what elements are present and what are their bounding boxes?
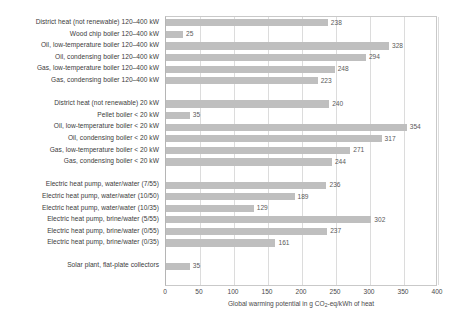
x-tick-label: 0 xyxy=(163,288,167,295)
bar-row: 238 xyxy=(166,17,436,29)
bar-value-label: 244 xyxy=(332,157,346,167)
bar-value-label: 354 xyxy=(407,122,421,132)
category-label: Electric heat pump, brine/water (0/35) xyxy=(0,236,163,248)
bar-value-label: 294 xyxy=(366,52,380,62)
bar xyxy=(166,100,329,107)
x-tick-label: 200 xyxy=(295,288,306,295)
bar xyxy=(166,54,366,61)
bar-row: 237 xyxy=(166,226,436,238)
bar xyxy=(166,205,254,212)
category-label: Electric heat pump, water/water (10/50) xyxy=(0,190,163,202)
bar-row: 328 xyxy=(166,40,436,52)
category-label: Oil, low-temperature boiler < 20 kW xyxy=(0,120,163,132)
gridline-400 xyxy=(438,17,439,285)
bar-value-label: 240 xyxy=(329,99,343,109)
bar xyxy=(166,31,183,38)
x-tick-label: 250 xyxy=(329,288,340,295)
bar-row: 317 xyxy=(166,133,436,145)
x-tick-label: 50 xyxy=(195,288,202,295)
bar-value-label: 271 xyxy=(350,145,364,155)
bar-row: 302 xyxy=(166,214,436,226)
category-label: Pellet boiler < 20 kW xyxy=(0,109,163,121)
category-label: Electric heat pump, brine/water (0/55) xyxy=(0,225,163,237)
bar-row: 240 xyxy=(166,98,436,110)
bar-row: 271 xyxy=(166,145,436,157)
bar-row: 294 xyxy=(166,52,436,64)
bar-row: 244 xyxy=(166,156,436,168)
category-label: Solar plant, flat-plate collectors xyxy=(0,259,163,271)
x-axis-title: Global warming potential in g CO2-eq/kWh… xyxy=(165,300,437,307)
bar-value-label: 328 xyxy=(389,41,403,51)
category-label: Gas, condensing boiler 120–400 kW xyxy=(0,74,163,86)
category-spacer xyxy=(0,167,163,179)
category-labels-column: District heat (not renewable) 120–400 kW… xyxy=(0,16,163,271)
bar xyxy=(166,135,382,142)
bar-value-label: 302 xyxy=(371,215,385,225)
bar xyxy=(166,66,335,73)
bar-row: 129 xyxy=(166,203,436,215)
x-axis-tick-labels: 050100150200250300350400 xyxy=(165,288,437,298)
bar xyxy=(166,228,327,235)
bar xyxy=(166,124,407,131)
bar xyxy=(166,158,332,165)
category-label: District heat (not renewable) 120–400 kW xyxy=(0,16,163,28)
bar-value-label: 317 xyxy=(382,134,396,144)
bar-row: 354 xyxy=(166,121,436,133)
bar-value-label: 189 xyxy=(295,192,309,202)
category-label: Gas, condensing boiler < 20 kW xyxy=(0,155,163,167)
category-label: District heat (not renewable) 20 kW xyxy=(0,97,163,109)
category-label: Oil, condensing boiler < 20 kW xyxy=(0,132,163,144)
bar xyxy=(166,182,326,189)
x-axis-title-prefix: Global warming potential in g CO xyxy=(228,300,325,307)
x-tick-label: 150 xyxy=(261,288,272,295)
bar xyxy=(166,239,275,246)
plot-area: 2382532829424822324035354317271244236189… xyxy=(165,16,437,286)
category-label: Oil, low-temperature boiler 120–400 kW xyxy=(0,39,163,51)
x-tick-label: 300 xyxy=(363,288,374,295)
bar-value-label: 238 xyxy=(328,18,342,28)
bar-value-label: 25 xyxy=(183,29,193,39)
bar-row-spacer xyxy=(166,168,436,180)
bar-value-label: 35 xyxy=(190,261,200,271)
category-label: Electric heat pump, water/water (10/35) xyxy=(0,202,163,214)
category-label: Gas, low-temperature boiler 120–400 kW xyxy=(0,62,163,74)
bar-row-spacer xyxy=(166,249,436,261)
category-label: Gas, low-temperature boiler < 20 kW xyxy=(0,144,163,156)
bar xyxy=(166,19,328,26)
category-spacer xyxy=(0,86,163,98)
category-label: Wood chip boiler 120–400 kW xyxy=(0,28,163,40)
bar-chart: District heat (not renewable) 120–400 kW… xyxy=(0,0,458,320)
bar xyxy=(166,147,350,154)
bar-row: 236 xyxy=(166,179,436,191)
bar-row: 189 xyxy=(166,191,436,203)
category-label: Electric heat pump, brine/water (5/55) xyxy=(0,213,163,225)
category-spacer xyxy=(0,248,163,260)
bar-row: 35 xyxy=(166,260,436,272)
x-axis-title-suffix: -eq/kWh of heat xyxy=(328,300,375,307)
x-axis-title-subscript: 2 xyxy=(325,302,328,308)
bar-row: 223 xyxy=(166,75,436,87)
bar-row: 25 xyxy=(166,29,436,41)
bar-value-label: 161 xyxy=(275,238,289,248)
bar-value-label: 35 xyxy=(190,110,200,120)
bar-row: 248 xyxy=(166,63,436,75)
x-tick-label: 100 xyxy=(227,288,238,295)
bar-row: 35 xyxy=(166,110,436,122)
bar xyxy=(166,263,190,270)
bar-value-label: 129 xyxy=(254,203,268,213)
bar-row: 161 xyxy=(166,237,436,249)
bars-layer: 2382532829424822324035354317271244236189… xyxy=(166,17,436,285)
bar-value-label: 223 xyxy=(318,76,332,86)
x-tick-label: 400 xyxy=(431,288,442,295)
x-tick-label: 350 xyxy=(397,288,408,295)
bar xyxy=(166,112,190,119)
category-label: Electric heat pump, water/water (7/55) xyxy=(0,178,163,190)
category-label: Oil, condensing boiler 120–400 kW xyxy=(0,51,163,63)
bar-value-label: 237 xyxy=(327,226,341,236)
bar xyxy=(166,77,318,84)
bar xyxy=(166,216,371,223)
bar xyxy=(166,193,295,200)
bar-value-label: 236 xyxy=(326,180,340,190)
bar-value-label: 248 xyxy=(335,64,349,74)
bar-row-spacer xyxy=(166,87,436,99)
